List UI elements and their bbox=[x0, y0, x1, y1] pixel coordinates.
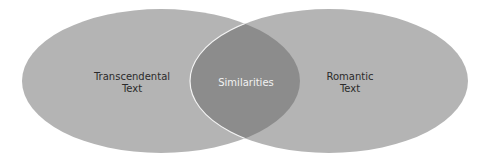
right-set-label-line2: Text bbox=[326, 83, 373, 95]
left-set-label-line1: Transcendental bbox=[94, 71, 170, 83]
overlap-label-text: Similarities bbox=[218, 77, 274, 89]
left-set-label-line2: Text bbox=[94, 83, 170, 95]
left-set-label: Transcendental Text bbox=[94, 71, 170, 95]
right-set-label-line1: Romantic bbox=[326, 71, 373, 83]
overlap-label: Similarities bbox=[218, 77, 274, 89]
right-set-label: Romantic Text bbox=[326, 71, 373, 95]
